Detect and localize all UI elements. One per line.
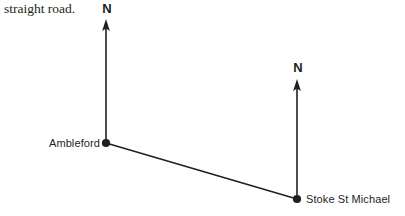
north-label-stoke: N [288,60,308,75]
place-marker-ambleford [102,139,110,147]
diagram-canvas: straight road. N N Ambleford Stoke St Mi… [0,0,405,216]
north-arrow-ambleford [102,19,110,143]
road-line [106,143,297,199]
place-label-ambleford: Ambleford [40,137,100,149]
north-arrow-stoke [293,79,301,199]
place-label-stoke-st-michael: Stoke St Michael [306,193,390,205]
north-label-ambleford: N [97,1,117,16]
place-marker-stoke-st-michael [293,195,301,203]
bearings-diagram [0,0,405,216]
